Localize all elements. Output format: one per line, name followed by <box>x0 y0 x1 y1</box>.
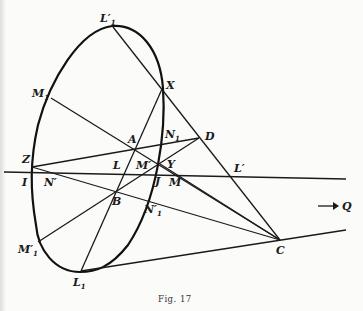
label-m: M <box>168 176 182 189</box>
label-n1: N1 <box>164 128 180 143</box>
label-l1p: L′1 <box>99 12 116 27</box>
label-m1p: M′1 <box>17 243 38 258</box>
line-l1-c <box>81 230 346 271</box>
line-x-l1 <box>81 89 162 271</box>
arrow-q-head <box>333 202 339 210</box>
line-d-m1p <box>38 138 199 242</box>
line-l1p-c <box>113 27 280 240</box>
label-np: N′ <box>43 176 57 189</box>
label-d: D <box>204 130 215 143</box>
label-l1: L1 <box>72 276 86 291</box>
label-mp: M′ <box>135 159 151 172</box>
label-l: L <box>112 159 121 172</box>
label-lp: L′ <box>233 162 245 175</box>
label-y: Y <box>167 158 176 171</box>
label-q: Q <box>342 200 352 213</box>
geometry-figure: L′1 X M1 A N1 D Z L M′ Y L′ I N′ J M B N… <box>0 0 363 311</box>
label-x: X <box>165 79 175 92</box>
label-i: I <box>21 176 28 189</box>
label-n1p: N′1 <box>143 203 162 218</box>
label-z: Z <box>21 153 31 166</box>
label-c: C <box>276 244 285 257</box>
label-j: J <box>153 175 161 188</box>
label-b: B <box>111 195 121 208</box>
label-m1: M1 <box>31 87 49 102</box>
figure-caption: Fig. 17 <box>158 294 192 304</box>
label-a: A <box>127 133 137 146</box>
